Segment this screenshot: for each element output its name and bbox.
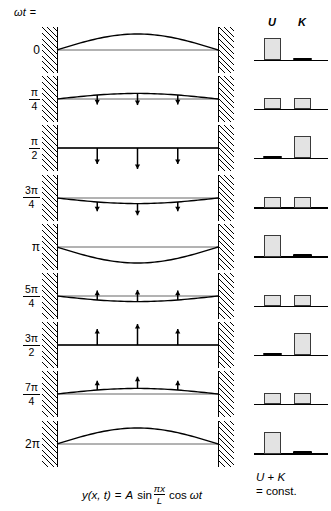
energy-bar-k (294, 98, 311, 109)
string-region (57, 223, 218, 271)
energy-conservation-caption: U + K = const. (256, 470, 331, 499)
equation-fraction-numerator: πx (154, 484, 165, 494)
wall-left (42, 175, 58, 221)
velocity-arrow (175, 148, 180, 164)
phase-fraction: π4 (29, 87, 40, 111)
energy-bar-chart (252, 420, 331, 468)
wall-right (218, 224, 234, 270)
phase-row: 3π2 (0, 321, 331, 369)
phase-numerator: 3π (23, 185, 40, 196)
wall-left (42, 27, 58, 73)
velocity-arrow (175, 381, 180, 390)
omega-t-header: ωt = (14, 6, 36, 18)
phase-value: 0 (33, 43, 40, 57)
velocity-arrow (175, 95, 180, 104)
energy-bar-k (294, 197, 311, 208)
phase-numerator: 7π (23, 382, 40, 393)
phase-numerator: 3π (23, 333, 40, 344)
phase-fraction: 3π2 (23, 333, 40, 357)
phase-numerator: π (29, 87, 40, 98)
equation-omega-t: ωt (190, 489, 202, 501)
velocity-arrow (175, 329, 180, 345)
wall-left (42, 322, 58, 368)
string-curve (57, 428, 218, 444)
energy-baseline (254, 158, 328, 159)
energy-bar-u (264, 432, 281, 454)
string-curve (57, 389, 218, 395)
wall-left (42, 125, 58, 171)
velocity-arrow (175, 291, 180, 300)
phase-fraction: 7π4 (23, 382, 40, 406)
caption-plus: + (264, 471, 277, 483)
energy-bar-u (263, 353, 282, 356)
phase-row: 2π (0, 420, 331, 468)
string-region (57, 272, 218, 320)
velocity-arrow (135, 148, 140, 169)
phase-numerator: 5π (23, 284, 40, 295)
energy-bar-k (294, 136, 311, 158)
energy-bar-u (264, 38, 281, 60)
velocity-arrow (175, 202, 180, 211)
energy-bar-chart (252, 223, 331, 271)
wall-right (218, 175, 234, 221)
string-curve (57, 198, 218, 204)
string-region (57, 370, 218, 418)
wall-right (218, 27, 234, 73)
wall-right (218, 322, 234, 368)
energy-bar-k (293, 254, 312, 257)
phase-denominator: 2 (27, 347, 37, 358)
energy-bar-chart (252, 174, 331, 222)
wall-left (42, 224, 58, 270)
velocity-arrow (95, 148, 100, 164)
phase-row: π4 (0, 75, 331, 123)
energy-bar-u (264, 295, 281, 306)
phase-label: 2π (0, 420, 40, 468)
wall-left (42, 76, 58, 122)
wall-right (218, 273, 234, 319)
equation-cos: cos (169, 489, 187, 501)
equation-fraction: πx L (154, 484, 165, 505)
string-curve (57, 247, 218, 263)
phase-denominator: 4 (27, 298, 37, 309)
phase-label: π2 (0, 124, 40, 172)
string-region (57, 321, 218, 369)
phase-label: 7π4 (0, 370, 40, 418)
phase-label: 3π4 (0, 174, 40, 222)
velocity-arrow (135, 324, 140, 345)
string-region (57, 420, 218, 468)
energy-bar-u (264, 197, 281, 208)
phase-value: π (32, 240, 40, 254)
phase-fraction: 5π4 (23, 284, 40, 308)
phase-fraction: π2 (29, 136, 40, 160)
phase-fraction: 3π4 (23, 185, 40, 209)
equation-lhs: y(x, t) (82, 489, 111, 501)
phase-row: 5π4 (0, 272, 331, 320)
equation-fraction-denominator: L (157, 496, 162, 506)
phase-label: π4 (0, 75, 40, 123)
wave-equation: y(x, t) = A sin πx L cos ωt (52, 484, 232, 505)
energy-bar-u (264, 235, 281, 257)
wall-right (218, 125, 234, 171)
phase-row: 7π4 (0, 370, 331, 418)
velocity-arrow (95, 329, 100, 345)
energy-bar-u (264, 393, 281, 404)
string-region (57, 124, 218, 172)
phase-row: 0 (0, 26, 331, 74)
wall-left (42, 273, 58, 319)
phase-row: 3π4 (0, 174, 331, 222)
wall-left (42, 421, 58, 467)
velocity-arrow (95, 381, 100, 390)
string-region (57, 174, 218, 222)
wall-left (42, 371, 58, 417)
energy-bar-chart (252, 321, 331, 369)
velocity-arrow (95, 95, 100, 104)
caption-const: = const. (256, 484, 331, 498)
energy-bar-k (294, 393, 311, 404)
string-curve (57, 34, 218, 50)
phase-denominator: 4 (27, 199, 37, 210)
phase-numerator: π (29, 136, 40, 147)
standing-wave-figure: ωt = U K 0π4π23π4π5π43π27π42π U + K = co… (0, 0, 331, 511)
phase-denominator: 2 (29, 150, 39, 161)
energy-bar-chart (252, 370, 331, 418)
velocity-arrow (135, 203, 140, 215)
